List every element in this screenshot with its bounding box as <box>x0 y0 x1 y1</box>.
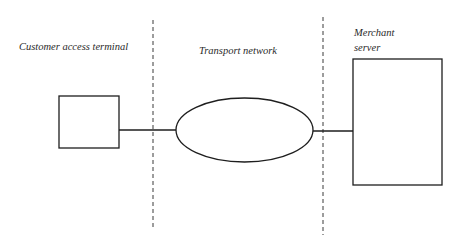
label-merchant-server: Merchant server <box>354 25 414 55</box>
customer-terminal-box <box>59 96 119 148</box>
diagram-canvas: Customer access terminal Transport netwo… <box>0 0 458 248</box>
label-transport-network: Transport network <box>199 45 277 57</box>
transport-network-ellipse <box>176 98 313 162</box>
merchant-server-box <box>353 59 442 185</box>
label-customer-access-terminal: Customer access terminal <box>19 41 128 53</box>
